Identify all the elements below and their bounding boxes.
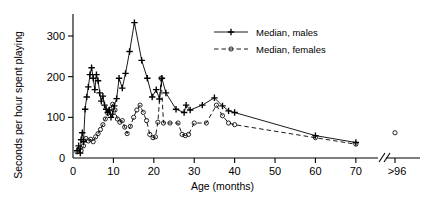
data-point-female (214, 103, 218, 107)
data-point-female (132, 115, 136, 119)
data-point-male (149, 94, 155, 100)
data-point-male (96, 90, 102, 96)
chart-canvas: 0100200300010203040506070>96Age (months)… (0, 0, 432, 200)
data-point-female (98, 127, 102, 131)
data-point-male (84, 94, 90, 100)
data-point-male (231, 109, 237, 115)
data-point-male (199, 102, 205, 108)
data-point-male (88, 65, 94, 71)
data-point-male (173, 106, 179, 112)
data-point-male (138, 57, 144, 63)
data-point-male (163, 90, 169, 96)
data-point-male (153, 86, 159, 92)
x-tick-label: 20 (148, 165, 160, 177)
x-tick-label: 0 (70, 165, 76, 177)
x-tick-label: 30 (188, 165, 200, 177)
axis-break-slash-1 (379, 153, 385, 162)
data-point-male (92, 86, 98, 92)
data-point-male (181, 109, 187, 115)
legend-marker-plus-icon (228, 29, 234, 35)
y-axis-title: Seconds per hour spent playing (12, 31, 24, 179)
x-tick-label-break: >96 (388, 165, 407, 177)
data-point-female (91, 140, 95, 144)
data-point-female-over96 (393, 131, 397, 135)
x-tick-label: 70 (350, 165, 362, 177)
series-line-median-females (77, 78, 356, 152)
data-point-male (122, 70, 128, 76)
data-point-female (144, 118, 148, 122)
data-point-male (113, 95, 119, 101)
data-point-male (82, 106, 88, 112)
x-tick-label: 10 (107, 165, 119, 177)
y-tick-label: 200 (47, 71, 65, 83)
x-tick-label: 40 (228, 165, 240, 177)
legend-label-females: Median, females (256, 44, 326, 55)
y-tick-label: 100 (47, 111, 65, 123)
data-point-male (131, 19, 137, 25)
data-point-male (126, 48, 132, 54)
chart-figure: 0100200300010203040506070>96Age (months)… (0, 0, 432, 200)
data-point-male (85, 84, 91, 90)
data-point-male (93, 71, 99, 77)
data-point-female (135, 108, 139, 112)
data-point-male (144, 75, 150, 81)
x-axis-title: Age (months) (191, 180, 254, 192)
data-point-male (119, 85, 125, 91)
legend-label-males: Median, males (256, 27, 318, 38)
x-tick-label: 50 (269, 165, 281, 177)
x-tick-label: 60 (309, 165, 321, 177)
data-point-male (116, 75, 122, 81)
y-tick-label: 0 (59, 152, 65, 164)
y-tick-label: 300 (47, 30, 65, 42)
data-point-male (79, 130, 85, 136)
data-point-female (192, 121, 196, 125)
series-line-median-males (77, 23, 356, 154)
